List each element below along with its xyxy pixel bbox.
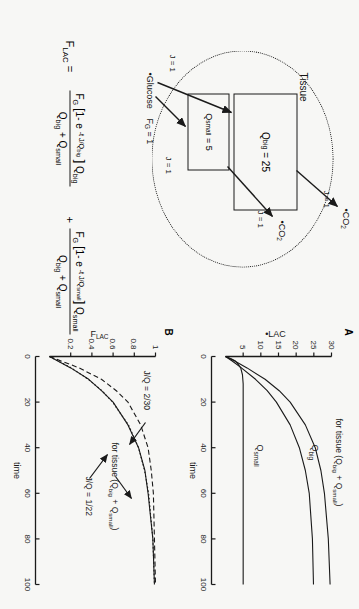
equation-term-1-numerator: FG [1- e -t J/Qbig ] Qbig [70,90,87,186]
panel-b-id: B [162,328,173,335]
svg-text:0.6: 0.6 [108,338,117,350]
chart-panel-b: B 0.20.40.60.81020406080100timeFLACJ/Q =… [5,326,173,604]
svg-text:10: 10 [255,340,264,349]
svg-text:100: 100 [198,577,207,591]
svg-text:0.2: 0.2 [65,338,74,350]
svg-text:15: 15 [273,340,282,349]
figure-page: Tissue Qbig = 25 Qsmall = 5 [0,0,359,609]
svg-text:0.4: 0.4 [86,338,95,350]
chart-panel-a: A 51015202530020406080100timefor tissue … [185,326,353,604]
fg-subscript: G [143,124,150,129]
arrow-glucose-to-qbig [157,82,231,112]
svg-text:25: 25 [308,340,317,349]
tissue-compartment-diagram: Tissue Qbig = 25 Qsmall = 5 [136,20,351,310]
svg-text:1: 1 [150,345,159,350]
svg-text:time: time [187,461,197,478]
term2-fg: F [73,231,84,237]
svg-text:time: time [11,461,21,478]
co2-bottom-species: •CO [276,220,286,237]
svg-text:40: 40 [198,443,207,452]
co2-label-top: •CO2 [339,208,349,228]
co2-bottom-subscript: 2 [275,237,282,241]
svg-text:0.8: 0.8 [129,338,138,350]
svg-text:40: 40 [22,443,31,452]
panel-b-plot-area: 0.20.40.60.81020406080100timeFLACJ/Q = 2… [5,326,173,604]
flux-label-co2-top: J = 1 [321,190,329,208]
arrow-co2-from-qbig [296,170,337,206]
svg-text:for tissue (Qbig + Qsmall): for tissue (Qbig + Qsmall) [108,442,119,530]
svg-text:60: 60 [198,488,207,497]
svg-text:20: 20 [22,397,31,406]
svg-text:for tissue (Qbig + Qsmall): for tissue (Qbig + Qsmall) [332,418,343,506]
svg-text:30: 30 [326,340,335,349]
equation-block: FLAC = FG [1- e -t J/Qbig ] Qbig Qbig + … [17,12,127,312]
equation-equals: = [63,65,75,71]
fg-value: = 1 [144,131,154,144]
svg-text:80: 80 [198,534,207,543]
svg-text:20: 20 [291,340,300,349]
fg-symbol: F [144,118,154,124]
svg-text:0: 0 [198,354,207,359]
co2-top-subscript: 2 [339,225,346,229]
term1-fg: F [73,93,84,99]
flux-label-glucose: J = 1 [167,54,175,72]
svg-text:0: 0 [22,354,31,359]
term2-fg-sub: G [71,237,80,243]
svg-text:FLAC: FLAC [90,328,108,339]
svg-text:•LAC: •LAC [265,328,286,338]
svg-text:20: 20 [198,397,207,406]
svg-text:5: 5 [238,345,247,350]
panel-a-plot-area: 51015202530020406080100timefor tissue (Q… [185,326,353,604]
svg-text:J/Q = 1/22: J/Q = 1/22 [83,476,93,516]
svg-text:Qsmall: Qsmall [253,444,264,466]
flux-label-co2-bottom: J = 1 [255,210,263,228]
flux-label-fg: J = 1 [163,156,171,174]
equation-term-2-denominator: Qbig + Qsmall [54,228,69,334]
equation-term-2: FG [1- e -t J/Qsmall] Qsmall Qbig + Qsma… [54,228,87,334]
panel-a-id: A [342,328,353,335]
co2-label-bottom: •CO2 [275,220,285,240]
equation-term-1: FG [1- e -t J/Qbig ] Qbig Qbig + Qsmall [54,90,87,186]
svg-text:60: 60 [22,488,31,497]
glucose-label: •Glucose [144,72,153,108]
svg-text:100: 100 [22,577,31,591]
arrow-co2-from-qsmall [227,166,272,216]
equation-term-1-denominator: Qbig + Qsmall [54,90,69,186]
equation-lhs: FLAC = [61,40,75,72]
term1-fg-sub: G [71,99,80,105]
fg-label: FG = 1 [143,118,153,144]
equation-lhs-subscript: LAC [61,47,70,62]
equation-lhs-symbol: F [63,40,75,47]
svg-text:J/Q = 2/30: J/Q = 2/30 [141,370,151,410]
arrow-fg-to-qsmall [155,96,185,126]
equation-term-2-numerator: FG [1- e -t J/Qsmall] Qsmall [70,228,87,334]
co2-top-species: •CO [340,208,350,225]
equation-plus: + [63,216,75,222]
svg-text:80: 80 [22,534,31,543]
